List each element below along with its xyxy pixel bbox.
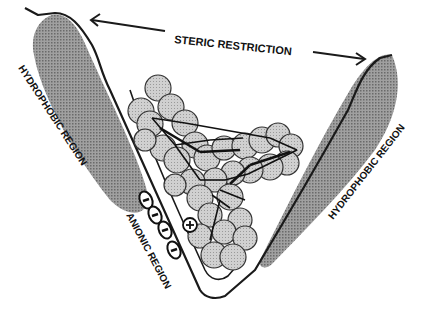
anion-charge-4	[165, 239, 183, 260]
steric-restriction-label: STERIC RESTRICTION	[174, 33, 293, 57]
cationic-charge	[183, 218, 197, 232]
receptor-binding-site-diagram: STERIC RESTRICTION HYDROPHOBIC REGION HY…	[0, 0, 437, 310]
diagram-canvas: STERIC RESTRICTION HYDROPHOBIC REGION HY…	[0, 0, 437, 310]
